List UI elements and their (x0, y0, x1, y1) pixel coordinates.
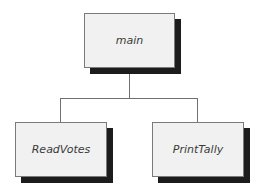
connector-printtally (197, 98, 198, 122)
connector-horizontal (60, 98, 198, 99)
printtally-box: PrintTally (152, 122, 244, 177)
connector-readvotes (60, 98, 61, 122)
readvotes-box: ReadVotes (15, 122, 107, 177)
readvotes-label: ReadVotes (32, 143, 91, 156)
main-box: main (84, 13, 175, 68)
printtally-label: PrintTally (173, 143, 223, 156)
main-label: main (116, 34, 143, 47)
